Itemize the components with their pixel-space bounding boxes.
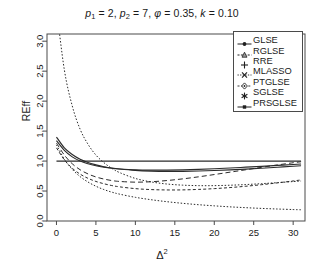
- legend-item-mlasso[interactable]: MLASSO: [237, 66, 297, 76]
- legend-symbol-rre: [237, 56, 252, 66]
- legend-label: SGLSE: [252, 87, 284, 97]
- legend-item-sglse[interactable]: SGLSE: [237, 87, 297, 97]
- series-line-rre: [56, 141, 301, 170]
- x-axis-title-base: Δ: [156, 249, 163, 261]
- x-axis-tick-label: 5: [93, 227, 98, 238]
- y-axis-tick-label: 2.5: [34, 65, 45, 78]
- legend-symbol-sglse: [237, 87, 252, 97]
- legend-item-ptglse[interactable]: PTGLSE: [237, 77, 297, 87]
- x-axis-tick-label: 10: [130, 227, 141, 238]
- legend-label: MLASSO: [252, 66, 292, 76]
- y-axis-tick-label: 2.0: [34, 95, 45, 108]
- legend-label: PRSGLSE: [252, 98, 297, 108]
- legend-symbol-glse: [237, 35, 252, 45]
- y-axis-tick-label: 1.5: [34, 124, 45, 137]
- legend-symbol-ptglse: [237, 77, 252, 87]
- y-axis-tick-label: 1.0: [34, 154, 45, 167]
- x-axis-title-exponent: 2: [164, 247, 168, 256]
- legend-label: RGLSE: [252, 46, 285, 56]
- y-axis-tick-label: 0.0: [34, 214, 45, 227]
- chart-legend: GLSERGLSERREMLASSOPTGLSESGLSEPRSGLSE: [233, 31, 303, 112]
- legend-label: GLSE: [252, 35, 278, 45]
- x-axis-title: Δ2: [0, 247, 324, 261]
- x-axis-tick-label: 0: [54, 227, 59, 238]
- series-line-mlasso: [56, 143, 301, 182]
- x-axis-tick-label: 30: [288, 227, 299, 238]
- y-axis-tick-label: 3.0: [34, 35, 45, 48]
- x-axis-tick-label: 20: [209, 227, 220, 238]
- legend-label: RRE: [252, 56, 273, 66]
- series-line-prsglse: [56, 145, 301, 210]
- legend-symbol-mlasso: [237, 66, 252, 76]
- filled-square-line-icon: [237, 102, 252, 112]
- chart-figure: p1 = 2, p2 = 7, φ = 0.35, k = 0.10 0.00.…: [0, 0, 324, 273]
- legend-symbol-rglse: [237, 46, 252, 56]
- legend-item-rre[interactable]: RRE: [237, 56, 297, 66]
- y-axis-tick-label: 0.5: [34, 184, 45, 197]
- x-axis-tick-label: 15: [170, 227, 181, 238]
- legend-item-prsglse[interactable]: PRSGLSE: [237, 97, 297, 107]
- legend-item-rglse[interactable]: RGLSE: [237, 45, 297, 55]
- legend-item-glse[interactable]: GLSE: [237, 35, 297, 45]
- y-axis-title: REff: [20, 81, 32, 141]
- legend-symbol-prsglse: [237, 98, 252, 108]
- x-axis-tick-label: 25: [248, 227, 259, 238]
- legend-label: PTGLSE: [252, 77, 290, 87]
